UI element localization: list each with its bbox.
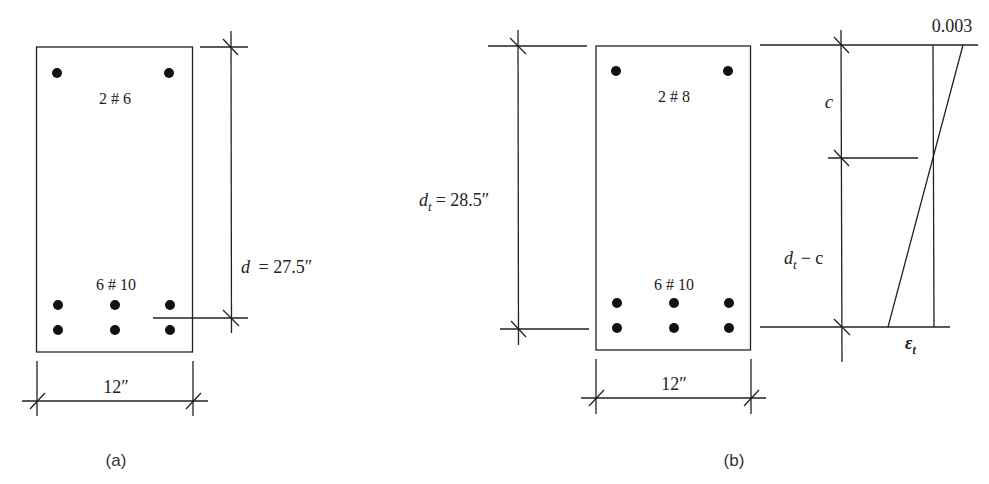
top-bars-label-a: 2 # 6 (99, 90, 131, 107)
depth-dimension-b (488, 30, 589, 345)
top-bar-b-right (723, 66, 733, 76)
bottom-bar-b (612, 323, 622, 333)
bottom-bars-label-a: 6 # 10 (96, 276, 136, 293)
beam-section-diagrams: 2 # 6 6 # 10 d = 27.5″ 12″ (0, 0, 989, 484)
bottom-bar-b (669, 298, 679, 308)
top-strain-label: 0.003 (932, 16, 973, 36)
figure-a: 2 # 6 6 # 10 d = 27.5″ 12″ (22, 31, 312, 470)
bottom-bar-b (724, 323, 734, 333)
strain-baseline (933, 45, 934, 327)
lower-depth-label: dt− c (784, 248, 823, 272)
bottom-bar-a (165, 325, 175, 335)
strain-diagram (760, 30, 978, 362)
bottom-bar-b (724, 298, 734, 308)
width-label-b: 12″ (661, 374, 687, 394)
bottom-bar-b (612, 298, 622, 308)
depth-label-a: d = 27.5″ (241, 257, 312, 277)
depth-label-b: dt= 28.5″ (419, 190, 489, 214)
top-bar-a-right (164, 68, 174, 78)
top-bars-label-b: 2 # 8 (658, 88, 690, 105)
top-bar-b-left (611, 66, 621, 76)
width-label-a: 12″ (103, 377, 129, 397)
bottom-bar-a (53, 325, 63, 335)
bottom-bar-a (110, 300, 120, 310)
bottom-bar-a (165, 300, 175, 310)
bottom-bar-a (110, 325, 120, 335)
bottom-bars-label-b: 6 # 10 (654, 276, 694, 293)
figure-b: 2 # 8 6 # 10 dt= 28.5″ 12″ (b) (419, 16, 978, 470)
bottom-strain-label: εt (905, 333, 916, 357)
neutral-axis-label: c (825, 91, 834, 112)
caption-a: (a) (106, 451, 127, 470)
top-bar-a-left (52, 68, 62, 78)
strain-profile-line (888, 45, 963, 327)
bottom-bar-a (53, 300, 63, 310)
bottom-bar-b (669, 323, 679, 333)
caption-b: (b) (724, 451, 745, 470)
